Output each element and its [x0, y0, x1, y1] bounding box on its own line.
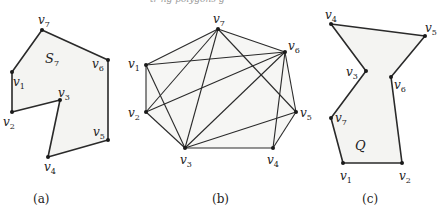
label-b-v7: v7 [213, 12, 225, 28]
label-c-v2: v2 [399, 169, 411, 185]
polygon-figure: v1 v2 v3 v4 v5 v6 v7 S7 (a) [0, 0, 446, 217]
label-a-v2: v2 [3, 115, 15, 131]
panel-b: v1 v2 v3 v4 v5 v6 v7 (b) [128, 12, 312, 206]
label-c-v4: v4 [325, 8, 337, 24]
panel-c: v1 v2 v3 v4 v5 v6 v7 Q (c) [325, 8, 437, 206]
label-b-v4: v4 [267, 153, 279, 169]
caption-b: (b) [212, 192, 229, 206]
panel-a: v1 v2 v3 v4 v5 v6 v7 S7 (a) [3, 13, 110, 206]
label-b-v1: v1 [128, 57, 140, 73]
caption-c: (c) [362, 192, 378, 206]
caption-a: (a) [33, 192, 50, 206]
polygon-q [331, 24, 425, 163]
label-a-v7: v7 [38, 13, 50, 29]
label-b-v5: v5 [300, 106, 312, 122]
region-label-q: Q [355, 138, 366, 153]
label-b-v2: v2 [128, 106, 140, 122]
label-c-v1: v1 [340, 169, 352, 185]
label-c-v5: v5 [425, 21, 437, 37]
label-a-v4: v4 [44, 160, 56, 176]
label-c-v3: v3 [346, 65, 358, 81]
label-c-v6: v6 [394, 78, 406, 94]
label-b-v3: v3 [180, 153, 192, 169]
label-b-v6: v6 [288, 39, 300, 55]
